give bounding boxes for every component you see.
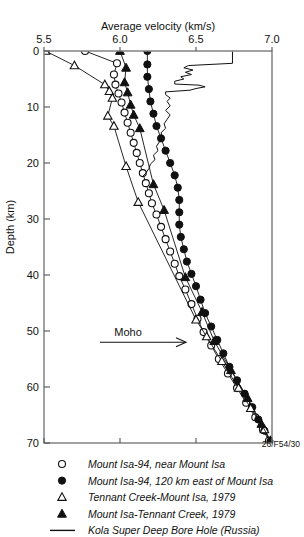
marker-open-circle: [153, 211, 160, 218]
marker-open-circle: [124, 119, 131, 126]
legend-item-label: Mount Isa-94, near Mount Isa: [88, 458, 225, 470]
marker-filled-circle: [153, 122, 160, 129]
marker-open-circle: [130, 139, 137, 146]
y-tick-label: 30: [27, 213, 39, 225]
marker-filled-circle: [147, 98, 154, 105]
marker-filled-circle: [157, 135, 164, 142]
x-axis-title: Average velocity (km/s): [101, 20, 215, 32]
marker-filled-circle: [145, 85, 152, 92]
y-tick-label: 20: [27, 157, 39, 169]
marker-open-circle: [162, 236, 169, 243]
y-axis-title: Depth (km): [4, 200, 16, 254]
marker-open-circle: [145, 190, 152, 197]
marker-open-circle: [182, 286, 189, 293]
y-tick-label: 40: [27, 269, 39, 281]
marker-open-circle: [133, 149, 140, 156]
legend-item-label: Mount Isa-94, 120 km east of Mount Isa: [88, 475, 273, 487]
marker-filled-circle: [180, 246, 187, 253]
marker-filled-circle: [176, 209, 183, 216]
legend-item-4[interactable]: Kola Super Deep Bore Hole (Russia): [50, 521, 292, 537]
marker-open-circle: [142, 180, 149, 187]
y-tick-label: 50: [27, 325, 39, 337]
marker-filled-circle: [150, 110, 157, 117]
marker-filled-circle: [171, 172, 178, 179]
marker-filled-circle: [197, 296, 204, 303]
moho-label: Moho: [114, 326, 142, 338]
marker-open-circle: [59, 461, 66, 468]
marker-filled-circle: [58, 477, 65, 484]
marker-filled-circle: [176, 196, 183, 203]
marker-filled-circle: [177, 233, 184, 240]
marker-filled-circle: [176, 221, 183, 228]
marker-filled-circle: [144, 73, 151, 80]
legend[interactable]: Mount Isa-94, near Mount IsaMount Isa-94…: [50, 455, 292, 537]
x-tick-label: 6.5: [188, 33, 203, 45]
marker-filled-circle: [183, 258, 190, 265]
marker-filled-circle: [192, 283, 199, 290]
x-tick-label: 6.0: [112, 33, 127, 45]
y-tick-label: 60: [27, 381, 39, 393]
marker-open-circle: [115, 90, 122, 97]
marker-filled-circle: [188, 270, 195, 277]
marker-open-circle: [121, 109, 128, 116]
marker-open-circle: [136, 160, 143, 167]
marker-open-circle: [148, 200, 155, 207]
y-tick-label: 70: [27, 437, 39, 449]
marker-open-circle: [113, 60, 120, 67]
marker-open-circle: [110, 71, 117, 78]
x-tick-label: 5.5: [36, 33, 51, 45]
marker-open-circle: [127, 129, 134, 136]
marker-open-circle: [167, 248, 174, 255]
marker-filled-circle: [174, 184, 181, 191]
marker-open-circle: [118, 99, 125, 106]
marker-filled-circle: [144, 61, 151, 68]
figure-code-label: 26/F54/30: [262, 439, 301, 449]
velocity-depth-figure: Average velocity (km/s)5.56.06.57.001020…: [0, 0, 304, 537]
legend-item-label: Mount Isa-Tennant Creek, 1979: [88, 508, 235, 520]
marker-filled-circle: [167, 159, 174, 166]
legend-item-label: Tennant Creek-Mount Isa, 1979: [88, 491, 235, 503]
y-tick-label: 0: [33, 45, 39, 57]
legend-item-2[interactable]: Tennant Creek-Mount Isa, 1979: [52, 488, 292, 505]
legend-item-3[interactable]: Mount Isa-Tennant Creek, 1979: [52, 505, 292, 522]
x-tick-label: 7.0: [264, 33, 279, 45]
legend-item-0[interactable]: Mount Isa-94, near Mount Isa: [52, 455, 292, 472]
marker-open-circle: [158, 223, 165, 230]
marker-filled-circle: [162, 147, 169, 154]
y-tick-label: 10: [27, 101, 39, 113]
marker-open-circle: [112, 81, 119, 88]
legend-item-label: Kola Super Deep Bore Hole (Russia): [88, 524, 260, 536]
legend-item-1[interactable]: Mount Isa-94, 120 km east of Mount Isa: [52, 472, 292, 489]
marker-filled-circle: [208, 323, 215, 330]
marker-open-circle: [171, 260, 178, 267]
marker-open-circle: [188, 301, 195, 308]
